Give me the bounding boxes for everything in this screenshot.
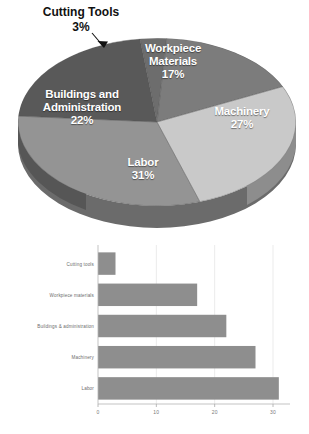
bar-chart-svg bbox=[0, 240, 309, 434]
bar-category-label: Machinery bbox=[71, 355, 94, 360]
bar bbox=[98, 315, 226, 337]
bar-chart-bars bbox=[98, 252, 279, 399]
bar-chart: Cutting toolsWorkpiece materialsBuilding… bbox=[0, 240, 309, 434]
pie-chart: Workpiece Materials 17% Machinery 27% La… bbox=[0, 0, 309, 240]
pie-slice-buildings-administration bbox=[18, 39, 157, 122]
bar-category-label: Buildings & administration bbox=[37, 324, 94, 329]
x-tick-label: 20 bbox=[212, 409, 218, 415]
bar-category-label: Workpiece materials bbox=[50, 292, 94, 297]
bar-category-label: Cutting tools bbox=[67, 261, 95, 266]
x-tick-label: 0 bbox=[97, 409, 100, 415]
x-axis-tickmarks bbox=[98, 404, 273, 407]
bar bbox=[98, 377, 279, 399]
pie-chart-svg bbox=[0, 0, 309, 240]
bar-category-label: Labor bbox=[82, 386, 95, 391]
x-tick-label: 10 bbox=[153, 409, 159, 415]
pie-label-cutting-tools: Cutting Tools 3% bbox=[20, 6, 142, 35]
bar bbox=[98, 346, 256, 368]
x-tick-label: 30 bbox=[270, 409, 276, 415]
bar bbox=[98, 284, 197, 306]
pie-slices bbox=[18, 38, 296, 206]
figure-root: Workpiece Materials 17% Machinery 27% La… bbox=[0, 0, 309, 434]
bar bbox=[98, 252, 116, 274]
